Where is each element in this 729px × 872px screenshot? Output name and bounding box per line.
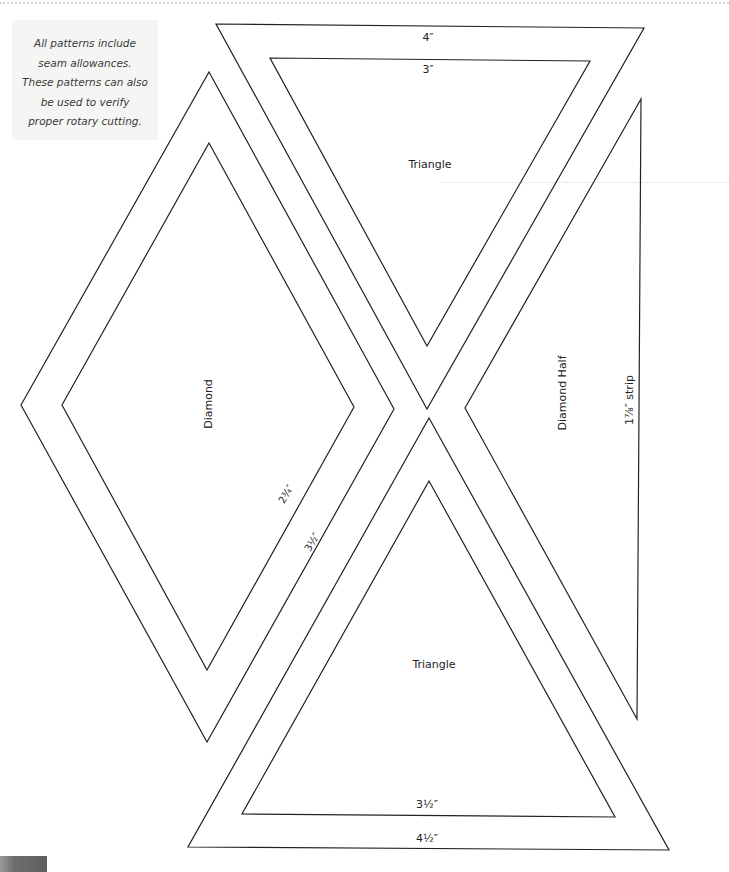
bottom-triangle-inner-outline	[242, 481, 615, 817]
top-triangle-inner-dimension: 3″	[422, 63, 433, 76]
top-triangle-inner-outline	[270, 58, 590, 346]
top-triangle-name: Triangle	[408, 158, 451, 171]
pattern-shapes	[0, 0, 729, 872]
page-corner-color-block	[0, 856, 47, 872]
bottom-triangle-name: Triangle	[412, 658, 455, 671]
top-triangle-outer-dimension: 4″	[422, 31, 433, 44]
diamond-half-outline	[465, 99, 641, 719]
diamond-half-name: Diamond Half	[556, 355, 569, 430]
diamond-name: Diamond	[202, 379, 215, 429]
top-triangle-outer-outline	[216, 24, 644, 409]
bottom-triangle-outer-dimension: 4½″	[416, 832, 438, 845]
bottom-triangle-inner-dimension: 3½″	[416, 798, 438, 811]
diamond-half-strip-dimension: 1⅞″ strip	[623, 375, 636, 425]
